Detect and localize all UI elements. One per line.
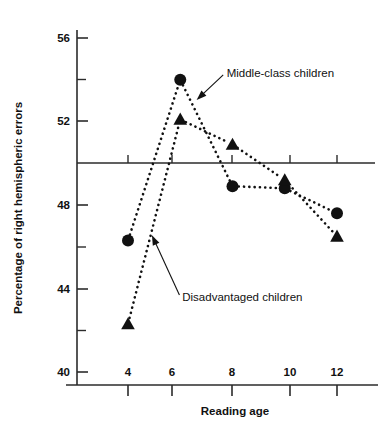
annotation-arrow-head — [152, 235, 159, 246]
series-segment — [289, 185, 333, 232]
series-segment — [130, 86, 178, 235]
data-point-circle — [331, 207, 343, 219]
x-axis-title: Reading age — [201, 405, 269, 417]
annotation-arrow-shaft — [202, 75, 223, 95]
data-point-triangle — [278, 173, 292, 185]
annotation-arrow-shaft — [155, 242, 180, 296]
y-tick-label-52: 52 — [57, 115, 70, 127]
series-segment — [183, 85, 230, 180]
data-point-triangle — [121, 317, 135, 329]
series-segment — [239, 186, 279, 188]
x-tick-label-8: 8 — [229, 366, 236, 378]
series-segment — [130, 125, 179, 318]
chart-svg: 56 52 48 44 40 Percentage of right hemis… — [0, 0, 387, 434]
x-axis: 4 6 8 10 12 Reading age — [66, 155, 378, 417]
data-point-circle — [122, 234, 134, 246]
annotation-middle-class: Middle-class children — [197, 67, 334, 99]
annotation-layer: Middle-class childrenDisadvantaged child… — [152, 67, 334, 302]
y-tick-label-48: 48 — [57, 199, 70, 211]
y-tick-label-44: 44 — [57, 283, 70, 295]
data-point-circle — [174, 74, 186, 86]
x-tick-label-6: 6 — [169, 366, 175, 378]
annotation-label: Middle-class children — [227, 67, 334, 79]
y-axis-title: Percentage of right hemispheric errors — [12, 102, 24, 314]
y-tick-label-56: 56 — [57, 32, 70, 44]
chart-figure: 56 52 48 44 40 Percentage of right hemis… — [0, 0, 387, 434]
data-point-triangle — [173, 113, 187, 125]
x-tick-label-4: 4 — [125, 366, 132, 378]
annotation-disadvantaged: Disadvantaged children — [152, 235, 303, 303]
x-tick-label-12: 12 — [331, 366, 344, 378]
series-segment — [238, 148, 280, 177]
y-axis: 56 52 48 44 40 Percentage of right hemis… — [12, 30, 88, 385]
y-tick-label-40: 40 — [57, 366, 70, 378]
data-point-triangle — [226, 138, 240, 150]
x-tick-label-10: 10 — [284, 366, 297, 378]
annotation-label: Disadvantaged children — [182, 291, 302, 303]
data-point-circle — [227, 180, 239, 192]
